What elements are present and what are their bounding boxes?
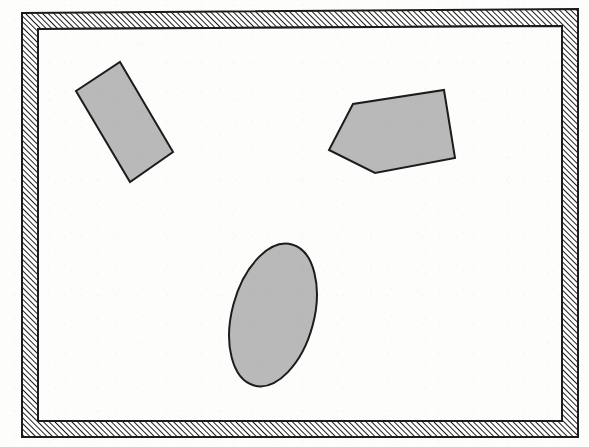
diagram-scene: Hatched rectangular frame enclosing thre… <box>0 0 589 447</box>
figure-canvas: Hatched rectangular frame enclosing thre… <box>0 0 589 447</box>
